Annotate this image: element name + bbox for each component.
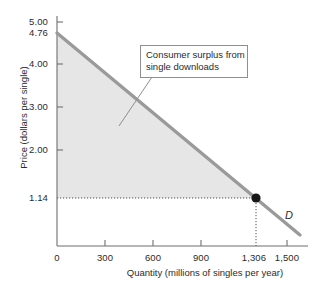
chart-figure: 5.00 4.76 4.00 3.00 2.00 1.14 0 300 600 … — [0, 0, 319, 291]
consumer-surplus-annotation: Consumer surplus from single downloads — [140, 45, 248, 78]
y-axis-title: Price (dollars per single) — [18, 53, 29, 183]
x-tick-label-300: 300 — [85, 252, 125, 263]
x-axis-title: Quantity (millions of singles per year) — [95, 267, 315, 278]
annotation-line-1: Consumer surplus from — [146, 49, 242, 61]
x-tick-label-1500: 1,500 — [267, 252, 307, 263]
x-tick-label-0: 0 — [37, 252, 77, 263]
annotation-line-2: single downloads — [146, 61, 242, 73]
demand-curve-label: D — [285, 209, 293, 221]
y-tick-label-5-00: 5.00 — [8, 16, 48, 27]
x-tick-label-900: 900 — [181, 252, 221, 263]
y-tick-label-1-14: 1.14 — [8, 192, 48, 203]
equilibrium-point-marker — [251, 193, 260, 202]
x-tick-label-600: 600 — [133, 252, 173, 263]
y-tick-label-4-76: 4.76 — [8, 27, 48, 38]
